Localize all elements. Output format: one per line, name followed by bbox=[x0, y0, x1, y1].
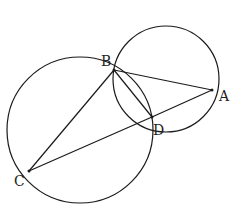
segment-cb bbox=[29, 70, 114, 171]
point-a bbox=[211, 89, 214, 92]
label-c: C bbox=[14, 173, 25, 189]
label-a: A bbox=[218, 88, 230, 104]
segment-dc bbox=[29, 117, 152, 171]
label-b: B bbox=[101, 53, 111, 69]
segment-ad bbox=[152, 90, 212, 117]
point-c bbox=[28, 170, 31, 173]
point-d bbox=[151, 116, 154, 119]
circle-bcd bbox=[7, 57, 153, 203]
point-b bbox=[113, 69, 116, 72]
circle-abd bbox=[113, 26, 219, 132]
geometry-diagram: B A D C bbox=[0, 0, 243, 207]
segment-ba bbox=[114, 70, 212, 90]
label-d: D bbox=[153, 122, 164, 138]
